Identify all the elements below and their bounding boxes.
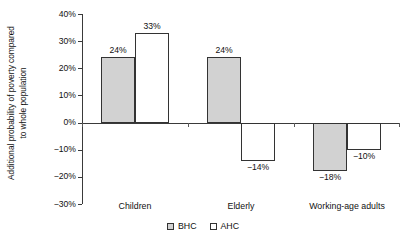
x-axis-tick-mark: [294, 123, 295, 127]
x-axis-tick-mark: [188, 123, 189, 127]
legend-swatch-icon: [210, 223, 217, 230]
bar-ahc-elderly: [241, 123, 275, 161]
y-axis-tick-mark: [78, 177, 82, 178]
y-axis-tick-label: 30%: [30, 37, 76, 46]
bar-value-label: −14%: [233, 163, 283, 172]
x-axis-category-label: Working-age adults: [294, 201, 400, 211]
bar-bhc-children: [101, 57, 135, 122]
legend-swatch-icon: [167, 223, 174, 230]
legend-item-ahc[interactable]: AHC: [210, 222, 240, 231]
bar-ahc-working-age-adults: [347, 123, 381, 150]
y-axis-tick-mark: [78, 150, 82, 151]
chart-legend: BHCAHC: [0, 222, 406, 231]
y-axis-tick-label: 40%: [30, 10, 76, 19]
legend-label: BHC: [178, 222, 197, 231]
x-axis-category-label: Elderly: [188, 201, 294, 211]
y-axis-tick-mark: [78, 41, 82, 42]
plot-area: 24%33%24%−14%−18%−10%: [82, 14, 400, 204]
y-axis-tick-label: 10%: [30, 91, 76, 100]
bar-bhc-working-age-adults: [313, 123, 347, 172]
y-axis-tick-mark: [78, 14, 82, 15]
y-axis-title-line-2: to whole population: [17, 26, 29, 180]
y-axis-tick-label: 0%: [30, 118, 76, 127]
bar-value-label: 24%: [199, 46, 249, 55]
y-axis-line: [82, 14, 83, 204]
y-axis-tick-mark: [78, 95, 82, 96]
y-axis-title: Additional probability of poverty compar…: [0, 0, 34, 205]
y-axis-tick-labels: 40%30%20%10%0%−10%−20%−30%: [30, 0, 76, 245]
bar-value-label: 33%: [127, 22, 177, 31]
y-axis-title-line-1: Additional probability of poverty compar…: [6, 26, 18, 180]
x-axis-category-label: Children: [82, 201, 188, 211]
y-axis-tick-mark: [78, 68, 82, 69]
y-axis-tick-label: −30%: [30, 200, 76, 209]
bar-value-label: −10%: [339, 152, 389, 161]
bar-ahc-children: [135, 33, 169, 123]
x-axis-tick-mark: [399, 123, 400, 127]
legend-label: AHC: [221, 222, 240, 231]
legend-item-bhc[interactable]: BHC: [167, 222, 197, 231]
bar-value-label: −18%: [305, 173, 355, 182]
bar-bhc-elderly: [207, 57, 241, 122]
y-axis-tick-label: −20%: [30, 172, 76, 181]
y-axis-tick-label: −10%: [30, 145, 76, 154]
poverty-probability-bar-chart: Additional probability of poverty compar…: [0, 0, 406, 245]
x-axis-tick-mark: [82, 123, 83, 127]
y-axis-tick-label: 20%: [30, 64, 76, 73]
